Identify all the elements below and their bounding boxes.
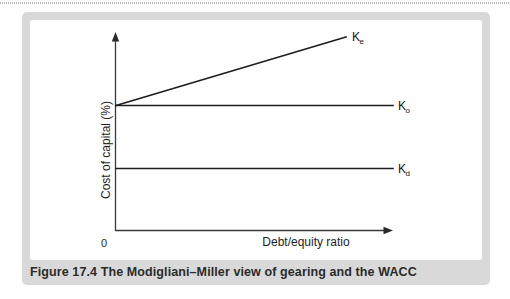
figure-caption: Figure 17.4 The Modigliani–Miller view o… [30,262,482,282]
chart-plot-panel [30,20,482,260]
page-top-rule [0,2,510,4]
figure-frame: Figure 17.4 The Modigliani–Miller view o… [22,12,490,285]
